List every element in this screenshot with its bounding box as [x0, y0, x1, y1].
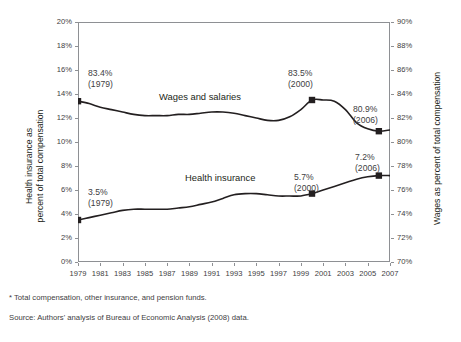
right-tick-mark [391, 22, 394, 23]
annotation-wages-1979: 83.4% (1979) [88, 68, 113, 89]
right-tick-label: 80% [397, 137, 425, 146]
footnote-note: * Total compensation, other insurance, a… [9, 293, 207, 302]
left-axis-title-line2: percent of total compensation [35, 66, 46, 266]
right-tick-label: 86% [397, 65, 425, 74]
series-label-wages: Wages and salaries [159, 91, 241, 102]
x-tick-mark [145, 263, 146, 266]
left-tick-label: 2% [46, 233, 72, 242]
annotation-wages-1979-year: (1979) [88, 79, 113, 90]
left-tick-label: 0% [46, 257, 72, 266]
right-tick-label: 72% [397, 233, 425, 242]
left-axis-title: Health insurance as percent of total com… [24, 66, 46, 266]
x-tick-mark [368, 263, 369, 266]
right-tick-mark [391, 94, 394, 95]
annotation-wages-2006-value: 80.9% [353, 104, 378, 115]
footnote-source: Source: Authors' analysis of Bureau of E… [9, 313, 249, 322]
right-tick-label: 74% [397, 209, 425, 218]
right-tick-mark [391, 118, 394, 119]
data-point-marker [78, 98, 81, 104]
x-tick-mark [323, 263, 324, 266]
left-tick-label: 10% [46, 137, 72, 146]
left-axis-title-line1: Health insurance as [24, 66, 35, 266]
right-tick-label: 84% [397, 89, 425, 98]
data-point-marker [309, 97, 315, 103]
left-tick-label: 16% [46, 65, 72, 74]
right-tick-mark [391, 142, 394, 143]
right-tick-mark [391, 70, 394, 71]
series-label-health: Health insurance [185, 172, 255, 183]
x-tick-mark [256, 263, 257, 266]
x-tick-mark [279, 263, 280, 266]
annotation-wages-2000: 83.5% (2000) [288, 68, 313, 89]
x-tick-mark [189, 263, 190, 266]
x-tick-mark [167, 263, 168, 266]
x-tick-mark [345, 263, 346, 266]
annotation-health-2000: 5.7% (2000) [294, 172, 319, 193]
left-tick-label: 20% [46, 17, 72, 26]
right-tick-label: 88% [397, 41, 425, 50]
right-tick-mark [391, 262, 394, 263]
right-axis-title: Wages as percent of total compensation [432, 49, 443, 249]
annotation-health-1979-year: (1979) [88, 198, 113, 209]
annotation-wages-2006: 80.9% (2006) [353, 104, 378, 125]
annotation-wages-2000-year: (2000) [288, 79, 313, 90]
right-tick-mark [391, 46, 394, 47]
data-point-marker [376, 172, 382, 178]
x-tick-mark [390, 263, 391, 266]
annotation-health-1979: 3.5% (1979) [88, 187, 113, 208]
series-lines [78, 22, 390, 262]
cropped-header-text [33, 0, 233, 6]
x-tick-mark [301, 263, 302, 266]
annotation-wages-2000-value: 83.5% [288, 68, 313, 79]
annotation-health-2006-year: (2006) [355, 163, 380, 174]
x-tick-mark [123, 263, 124, 266]
annotation-health-2000-year: (2000) [294, 183, 319, 194]
data-point-marker [376, 128, 382, 134]
x-tick-label: 2007 [375, 269, 405, 278]
data-point-marker [78, 217, 81, 223]
right-tick-mark [391, 166, 394, 167]
wages-line [78, 99, 390, 131]
left-tick-label: 6% [46, 185, 72, 194]
left-tick-label: 8% [46, 161, 72, 170]
right-tick-mark [391, 190, 394, 191]
left-tick-label: 14% [46, 89, 72, 98]
right-tick-mark [391, 214, 394, 215]
annotation-health-2006-value: 7.2% [355, 152, 380, 163]
annotation-health-1979-value: 3.5% [88, 187, 113, 198]
annotation-wages-2006-year: (2006) [353, 115, 378, 126]
right-tick-label: 82% [397, 113, 425, 122]
x-tick-mark [212, 263, 213, 266]
left-tick-label: 18% [46, 41, 72, 50]
x-tick-mark [78, 263, 79, 266]
chart-figure: Health insurance as percent of total com… [0, 0, 461, 342]
right-tick-label: 70% [397, 257, 425, 266]
right-tick-label: 90% [397, 17, 425, 26]
x-tick-mark [100, 263, 101, 266]
x-tick-mark [234, 263, 235, 266]
annotation-health-2000-value: 5.7% [294, 172, 319, 183]
left-tick-label: 12% [46, 113, 72, 122]
left-tick-label: 4% [46, 209, 72, 218]
right-tick-label: 78% [397, 161, 425, 170]
right-tick-label: 76% [397, 185, 425, 194]
right-tick-mark [391, 238, 394, 239]
annotation-wages-1979-value: 83.4% [88, 68, 113, 79]
annotation-health-2006: 7.2% (2006) [355, 152, 380, 173]
